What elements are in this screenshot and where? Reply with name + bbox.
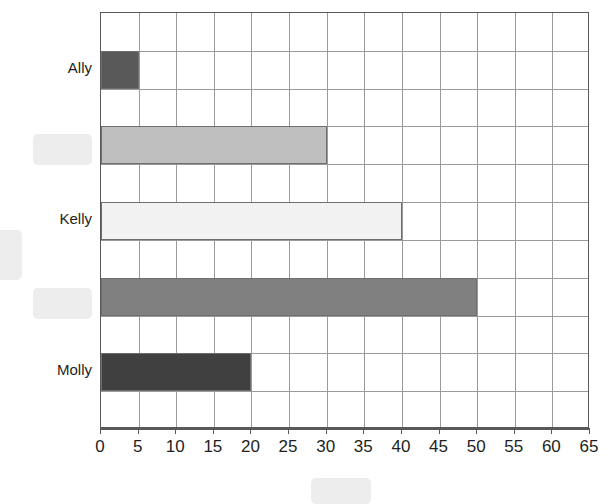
x-axis-tick-label: 5	[118, 437, 158, 457]
bar	[101, 202, 402, 240]
category-label-kelly: Kelly	[0, 210, 92, 227]
redaction-label-row4	[33, 288, 92, 319]
x-axis-tick	[138, 428, 139, 434]
x-axis-tick	[250, 428, 251, 434]
x-axis-line	[100, 428, 589, 430]
x-axis-tick	[326, 428, 327, 434]
x-axis-tick	[100, 428, 101, 434]
x-axis-tick	[363, 428, 364, 434]
x-axis-tick	[476, 428, 477, 434]
x-axis-tick	[213, 428, 214, 434]
x-axis-tick-label: 45	[419, 437, 459, 457]
x-axis-tick-label: 30	[306, 437, 346, 457]
bars-group	[101, 13, 588, 427]
bar	[101, 126, 327, 164]
bar	[101, 353, 251, 391]
redaction-left-edge	[0, 230, 22, 280]
x-axis-tick-label: 25	[268, 437, 308, 457]
category-label-molly: Molly	[0, 361, 92, 378]
category-label-ally: Ally	[0, 59, 92, 76]
x-axis-tick-label: 10	[155, 437, 195, 457]
x-axis-tick-label: 20	[230, 437, 270, 457]
x-axis-tick-label: 0	[80, 437, 120, 457]
x-axis-tick	[589, 428, 590, 434]
bar	[101, 278, 477, 316]
x-axis-tick	[551, 428, 552, 434]
x-axis-tick	[514, 428, 515, 434]
bar	[101, 51, 139, 89]
x-axis-tick-label: 40	[381, 437, 421, 457]
redaction-label-row2	[33, 134, 92, 165]
x-axis-tick	[401, 428, 402, 434]
x-axis-tick-label: 50	[456, 437, 496, 457]
redaction-bottom-caption	[311, 478, 371, 504]
x-axis-tick	[439, 428, 440, 434]
x-axis-tick-label: 55	[494, 437, 534, 457]
x-axis-tick	[175, 428, 176, 434]
x-axis-tick-label: 15	[193, 437, 233, 457]
x-axis-tick-label: 60	[531, 437, 571, 457]
x-axis-tick	[288, 428, 289, 434]
chart-title	[100, 0, 589, 2]
x-axis-tick-label: 65	[569, 437, 609, 457]
x-axis-tick-label: 35	[343, 437, 383, 457]
plot-area	[100, 12, 589, 428]
